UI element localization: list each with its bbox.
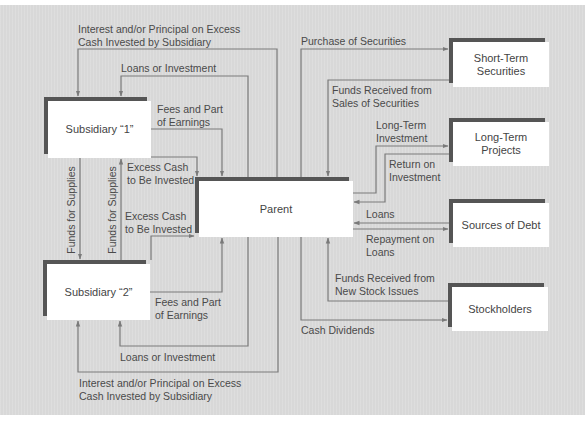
node-label: Subsidiary “1”	[66, 123, 134, 136]
label-funds-new-stock: Funds Received from New Stock Issues	[335, 272, 435, 298]
label-line: Cash Invested by Subsidiary	[79, 390, 241, 403]
label-fees-bottom: Fees and Part of Earnings	[155, 296, 221, 322]
label-line: Funds Received from	[332, 84, 432, 97]
label-line: Loans or Investment	[120, 351, 215, 364]
label-line: Excess Cash	[127, 161, 194, 174]
label-funds-from-sales: Funds Received from Sales of Securities	[332, 84, 432, 110]
label-fees-top: Fees and Part of Earnings	[157, 103, 223, 129]
label-line: Investment	[376, 132, 427, 145]
label-line: Long-Term	[376, 119, 427, 132]
label-loans-top: Loans or Investment	[121, 62, 216, 75]
label-line: Investment	[389, 171, 440, 184]
label-line: Cash Invested by Subsidiary	[78, 36, 240, 49]
label-line: Loans or Investment	[121, 62, 216, 75]
label-long-term-investment: Long-Term Investment	[376, 119, 427, 145]
label-loans-bottom: Loans or Investment	[120, 351, 215, 364]
node-label-line: Projects	[481, 144, 521, 157]
label-line: of Earnings	[157, 116, 223, 129]
label-loans-right: Loans	[366, 208, 395, 221]
node-label: Stockholders	[468, 303, 532, 316]
label-return-on-investment: Return on Investment	[389, 158, 440, 184]
flow-excess-cash-2-line	[151, 236, 194, 260]
node-label-line: Securities	[477, 65, 525, 78]
label-line: Fees and Part	[155, 296, 221, 309]
label-line: to Be Invested	[127, 174, 194, 187]
label-line: Purchase of Securities	[301, 35, 406, 48]
label-excess-cash-1: Excess Cash to Be Invested	[127, 161, 194, 187]
node-label-line: Long-Term	[475, 131, 528, 144]
node-label-line: Short-Term	[474, 52, 528, 65]
label-line: Funds Received from	[335, 272, 435, 285]
label-line: to Be Invested	[125, 223, 192, 236]
label-cash-dividends: Cash Dividends	[301, 324, 375, 337]
label-line: Interest and/or Principal on Excess	[79, 377, 241, 390]
label-repayment-on-loans: Repayment on Loans	[366, 233, 434, 259]
label-line: Interest and/or Principal on Excess	[78, 23, 240, 36]
label-line: Repayment on	[366, 233, 434, 246]
node-label: Subsidiary “2”	[65, 286, 133, 299]
label-funds-supplies-up: Funds for Supplies	[106, 164, 118, 256]
node-label: Parent	[260, 203, 292, 216]
label-interest-top: Interest and/or Principal on Excess Cash…	[78, 23, 240, 49]
node-label: Sources of Debt	[462, 219, 541, 232]
label-line: Fees and Part	[157, 103, 223, 116]
label-line: Excess Cash	[125, 210, 192, 223]
label-funds-supplies-down: Funds for Supplies	[65, 164, 77, 256]
label-interest-bottom: Interest and/or Principal on Excess Cash…	[79, 377, 241, 403]
label-purchase-securities: Purchase of Securities	[301, 35, 406, 48]
label-line: Return on	[389, 158, 440, 171]
label-line: Cash Dividends	[301, 324, 375, 337]
label-line: New Stock Issues	[335, 285, 435, 298]
label-line: of Earnings	[155, 309, 221, 322]
label-line: Loans	[366, 208, 395, 221]
label-line: Sales of Securities	[332, 97, 432, 110]
flow-fees-bottom-line	[150, 238, 222, 292]
label-line: Loans	[366, 246, 434, 259]
label-excess-cash-2: Excess Cash to Be Invested	[125, 210, 192, 236]
